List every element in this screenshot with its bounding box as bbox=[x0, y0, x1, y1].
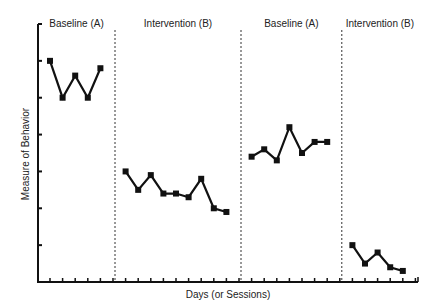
square-marker bbox=[123, 168, 129, 174]
square-marker bbox=[349, 242, 355, 248]
data-line bbox=[352, 245, 402, 271]
y-axis-label: Measure of Behavior bbox=[20, 107, 31, 200]
square-marker bbox=[60, 95, 66, 101]
square-marker bbox=[148, 172, 154, 178]
phase-label: Baseline (A) bbox=[264, 18, 318, 29]
phase-label: Intervention (B) bbox=[144, 18, 212, 29]
square-marker bbox=[72, 73, 78, 79]
square-marker bbox=[249, 154, 255, 160]
square-marker bbox=[312, 139, 318, 145]
square-marker bbox=[85, 95, 91, 101]
phase-labels: Baseline (A)Intervention (B)Baseline (A)… bbox=[49, 18, 414, 29]
square-marker bbox=[198, 176, 204, 182]
ab-ab-chart: Baseline (A)Intervention (B)Baseline (A)… bbox=[0, 0, 438, 308]
square-marker bbox=[173, 191, 179, 197]
phase-label: Baseline (A) bbox=[49, 18, 103, 29]
square-marker bbox=[261, 146, 267, 152]
square-marker bbox=[375, 250, 381, 256]
square-marker bbox=[362, 261, 368, 267]
square-marker bbox=[47, 58, 53, 64]
square-marker bbox=[324, 139, 330, 145]
data-line bbox=[50, 61, 100, 98]
square-marker bbox=[286, 124, 292, 130]
square-marker bbox=[186, 194, 192, 200]
phase-label: Intervention (B) bbox=[346, 18, 414, 29]
square-marker bbox=[97, 65, 103, 71]
data-series bbox=[47, 58, 406, 274]
square-marker bbox=[160, 191, 166, 197]
square-marker bbox=[400, 268, 406, 274]
x-axis-label: Days (or Sessions) bbox=[186, 289, 270, 300]
square-marker bbox=[387, 264, 393, 270]
square-marker bbox=[223, 209, 229, 215]
axes bbox=[37, 24, 418, 282]
phase-change-lines bbox=[115, 30, 342, 282]
square-marker bbox=[299, 150, 305, 156]
square-marker bbox=[135, 187, 141, 193]
square-marker bbox=[211, 205, 217, 211]
square-marker bbox=[274, 157, 280, 163]
